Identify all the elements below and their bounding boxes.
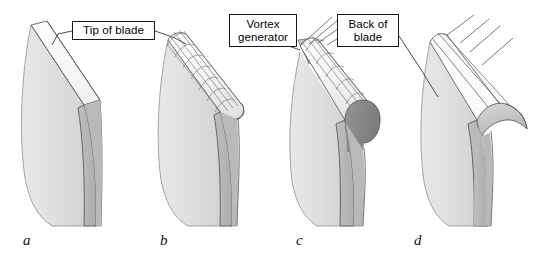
callout-back-of-blade: Back of blade <box>337 14 399 47</box>
panel-b-blade <box>158 30 244 226</box>
panel-label-a: a <box>23 232 31 249</box>
figure-root: Tip of blade Vortex generator Back of bl… <box>0 0 546 261</box>
panel-label-c: c <box>296 232 303 249</box>
panel-a-blade <box>21 21 102 226</box>
callout-tip-of-blade: Tip of blade <box>72 21 155 40</box>
callout-vortex-generator: Vortex generator <box>229 14 297 47</box>
panel-label-d: d <box>414 232 422 249</box>
panel-d-blade <box>421 15 527 226</box>
panel-label-b: b <box>160 232 168 249</box>
